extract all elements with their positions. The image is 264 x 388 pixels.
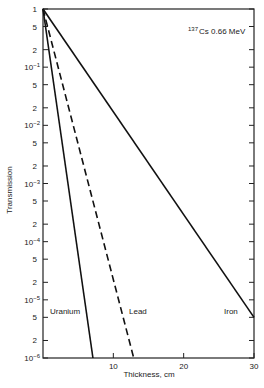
y-tick-label: 10−4 [24, 237, 40, 247]
y-tick-label: 2 [33, 104, 38, 113]
y-tick-label: 5 [33, 81, 38, 90]
y-tick-label: 2 [33, 220, 38, 229]
x-tick-label: 20 [179, 362, 188, 371]
x-axis-ticks: 102030 [109, 353, 259, 371]
y-tick-label: 2 [33, 46, 38, 55]
series-labels: UraniumLeadIron [50, 307, 238, 316]
series-label-uranium: Uranium [50, 307, 81, 316]
y-tick-label: 2 [33, 162, 38, 171]
x-axis-title: Thickness, cm [123, 370, 174, 379]
isotope-text: Cs 0.66 MeV [199, 27, 246, 36]
isotope-annotation: 137Cs 0.66 MeV [188, 26, 246, 36]
y-axis-title: Transmission [5, 166, 14, 213]
y-tick-label: 10−5 [24, 295, 40, 305]
series-line-uranium [43, 9, 93, 358]
y-tick-label: 10−1 [24, 62, 40, 72]
y-tick-label: 2 [33, 278, 38, 287]
y-tick-label: 1 [33, 5, 38, 14]
y-tick-label: 10−3 [24, 179, 40, 189]
transmission-chart: 15210−15210−25210−35210−45210−55210−6 10… [0, 0, 264, 388]
y-tick-label: 5 [33, 139, 38, 148]
series-line-iron [43, 9, 254, 317]
isotope-mass: 137 [188, 26, 199, 32]
plot-border [43, 9, 254, 358]
y-tick-label: 10−6 [24, 353, 40, 363]
series-label-iron: Iron [224, 307, 238, 316]
x-tick-label: 30 [250, 362, 259, 371]
series-line-lead [43, 9, 134, 358]
series-label-lead: Lead [129, 307, 147, 316]
y-tick-label: 2 [33, 336, 38, 345]
y-tick-label: 5 [33, 313, 38, 322]
y-tick-label: 10−2 [24, 120, 40, 130]
y-tick-label: 5 [33, 255, 38, 264]
y-tick-label: 5 [33, 197, 38, 206]
x-tick-label: 10 [109, 362, 118, 371]
y-tick-label: 5 [33, 23, 38, 32]
plot-frame [43, 9, 254, 358]
series-lines [43, 9, 254, 358]
